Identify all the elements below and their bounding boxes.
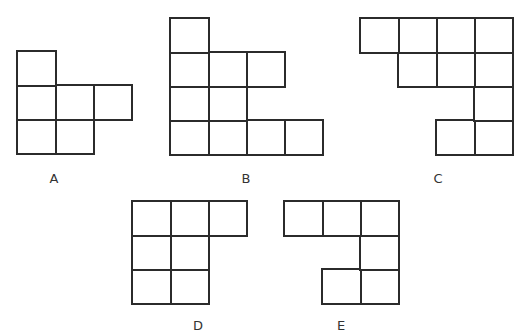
grid-cell: [283, 200, 324, 237]
grid-cell: [359, 234, 400, 271]
grid-cell: [321, 268, 362, 305]
grid-cell: [359, 200, 400, 237]
shape-e: E: [0, 0, 525, 332]
grid-cell: [359, 268, 400, 305]
shape-label-e: E: [337, 319, 345, 332]
diagram-canvas: A B C D E: [0, 0, 525, 332]
grid-cell: [321, 200, 362, 237]
